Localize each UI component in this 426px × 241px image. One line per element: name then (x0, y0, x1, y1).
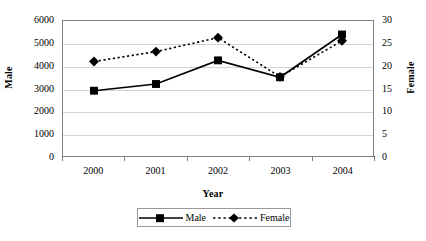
data-point-female-2001[interactable] (151, 47, 161, 57)
y-axis-left-tick-label: 3000 (14, 83, 54, 94)
y-axis-right-tick-label: 20 (382, 60, 418, 71)
x-axis-tick-mark (124, 157, 125, 161)
x-axis-tick-label: 2000 (68, 165, 118, 176)
legend-label-female: Female (260, 213, 289, 223)
legend-item-male[interactable]: Male (139, 212, 207, 224)
diamond-marker-icon (213, 212, 257, 224)
y-axis-right-tick-label: 25 (382, 37, 418, 48)
y-axis-right-tick-label: 0 (382, 151, 418, 162)
x-axis-tick-label: 2004 (318, 165, 368, 176)
x-axis-tick-mark (187, 157, 188, 161)
y-axis-right-tick-label: 5 (382, 128, 418, 139)
y-axis-left-tick-label: 2000 (14, 105, 54, 116)
x-axis-tick-mark (62, 157, 63, 161)
legend: Male Female (137, 208, 291, 227)
series-layer (63, 21, 373, 156)
data-point-male-2000[interactable] (90, 87, 98, 95)
y-axis-left-title: Male (3, 56, 14, 100)
y-axis-left-tick-label: 1000 (14, 128, 54, 139)
x-axis-tick-label: 2003 (255, 165, 305, 176)
x-axis-tick-mark (249, 157, 250, 161)
x-axis-tick-mark (312, 157, 313, 161)
x-axis-title: Year (0, 188, 426, 199)
legend-item-female[interactable]: Female (213, 212, 289, 224)
plot-area (62, 20, 374, 157)
line-chart: Male Female Year 01000200030004000500060… (0, 0, 426, 241)
y-axis-right-tick-label: 30 (382, 14, 418, 25)
y-axis-left-tick-label: 4000 (14, 60, 54, 71)
y-axis-right-tick-label: 10 (382, 105, 418, 116)
y-axis-right-tick-label: 15 (382, 83, 418, 94)
data-point-female-2000[interactable] (89, 57, 99, 67)
y-axis-left-tick-label: 6000 (14, 14, 54, 25)
x-axis-tick-label: 2001 (131, 165, 181, 176)
legend-label-male: Male (186, 213, 207, 223)
y-axis-left-tick-label: 5000 (14, 37, 54, 48)
data-point-female-2002[interactable] (213, 33, 223, 43)
square-marker-icon (139, 212, 183, 224)
data-point-male-2002[interactable] (214, 56, 222, 64)
y-axis-left-tick-label: 0 (14, 151, 54, 162)
x-axis-tick-label: 2002 (193, 165, 243, 176)
x-axis-tick-mark (374, 157, 375, 161)
data-point-male-2001[interactable] (152, 80, 160, 88)
